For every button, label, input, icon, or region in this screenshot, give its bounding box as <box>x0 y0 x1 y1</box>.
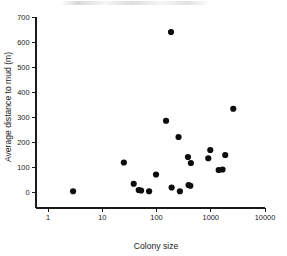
x-axis-ticks: 110100100010000 <box>46 208 275 222</box>
data-point <box>185 154 191 160</box>
data-point <box>187 183 193 189</box>
data-point <box>138 187 144 193</box>
y-axis-ticks: 0100200300400500600700 <box>17 13 36 197</box>
y-tick-label: 500 <box>17 63 29 72</box>
y-tick-label: 400 <box>17 88 29 97</box>
x-tick-label: 10000 <box>255 213 276 222</box>
y-tick-label: 100 <box>17 163 29 172</box>
y-tick-label: 0 <box>25 188 29 197</box>
data-point <box>219 166 225 172</box>
data-point <box>222 152 228 158</box>
data-point <box>177 188 183 194</box>
data-point <box>121 159 127 165</box>
data-point <box>169 184 175 190</box>
data-point <box>175 134 181 140</box>
x-tick-label: 1 <box>46 213 50 222</box>
data-point-group <box>70 29 236 194</box>
data-point <box>168 29 174 35</box>
data-point <box>70 188 76 194</box>
y-tick-label: 200 <box>17 138 29 147</box>
data-point <box>207 147 213 153</box>
data-point <box>153 171 159 177</box>
plot-canvas: 0100200300400500600700 110100100010000 C… <box>0 0 287 256</box>
y-tick-label: 700 <box>17 13 29 22</box>
data-point <box>205 155 211 161</box>
y-tick-label: 300 <box>17 113 29 122</box>
y-tick-label: 600 <box>17 38 29 47</box>
data-point <box>146 188 152 194</box>
y-axis-title: Average distance to mud (m) <box>3 52 13 162</box>
x-tick-label: 1000 <box>203 213 219 222</box>
data-point <box>230 106 236 112</box>
x-tick-label: 10 <box>98 213 106 222</box>
data-point <box>163 118 169 124</box>
scatter-plot-figure: 0100200300400500600700 110100100010000 C… <box>0 0 287 256</box>
x-axis-title: Colony size <box>134 241 179 251</box>
data-point <box>188 160 194 166</box>
data-point <box>131 181 137 187</box>
x-tick-label: 100 <box>150 213 162 222</box>
